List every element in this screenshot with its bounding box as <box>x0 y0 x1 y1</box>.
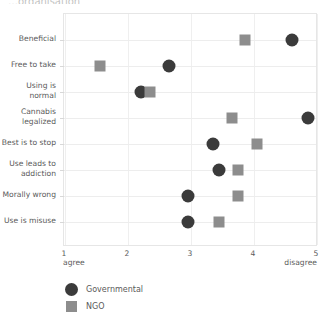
data-point-square[interactable] <box>252 139 263 150</box>
y-axis-category-label: Free to take <box>0 60 56 69</box>
legend: Governmental NGO <box>60 281 143 315</box>
y-axis-tick <box>60 170 64 171</box>
data-point-circle[interactable] <box>181 216 194 229</box>
x-axis-right-anchor-label: disagree <box>284 258 317 267</box>
gridline-vertical <box>65 14 66 245</box>
y-axis-tick <box>60 222 64 223</box>
x-axis-tick-label: 3 <box>188 249 193 258</box>
gridline-horizontal <box>64 92 316 93</box>
data-point-circle[interactable] <box>301 112 314 125</box>
gridline-vertical <box>254 14 255 245</box>
data-point-circle[interactable] <box>181 190 194 203</box>
y-axis-category-label: Use leads to addiction <box>0 159 56 177</box>
y-axis-tick <box>60 66 64 67</box>
y-axis-category-label: Cannabis legalized <box>0 107 56 125</box>
square-marker-icon <box>60 301 82 312</box>
y-axis-tick <box>60 196 64 197</box>
plot-area <box>63 13 317 246</box>
data-point-square[interactable] <box>214 217 225 228</box>
gridline-vertical <box>317 14 318 245</box>
x-axis-tick-label: 1 <box>62 249 67 258</box>
data-point-square[interactable] <box>239 35 250 46</box>
y-axis-category-label: Morally wrong <box>0 190 56 199</box>
gridline-horizontal <box>64 40 316 41</box>
gridline-horizontal <box>64 170 316 171</box>
data-point-circle[interactable] <box>285 34 298 47</box>
y-axis-tick <box>60 144 64 145</box>
x-axis: 12345 agree disagree <box>63 247 317 277</box>
data-point-square[interactable] <box>233 165 244 176</box>
x-axis-tick-label: 2 <box>125 249 130 258</box>
x-axis-left-anchor-label: agree <box>63 258 85 267</box>
y-axis-category-label: Using is normal <box>0 81 56 99</box>
data-point-square[interactable] <box>145 87 156 98</box>
y-axis-tick <box>60 118 64 119</box>
y-axis-tick <box>60 40 64 41</box>
x-axis-tick-label: 5 <box>314 249 319 258</box>
gridline-horizontal <box>64 118 316 119</box>
legend-label: Governmental <box>86 285 143 294</box>
data-point-circle[interactable] <box>162 60 175 73</box>
gridline-vertical <box>191 14 192 245</box>
data-point-circle[interactable] <box>207 138 220 151</box>
gridline-vertical <box>128 14 129 245</box>
data-point-square[interactable] <box>94 61 105 72</box>
legend-item-ngo[interactable]: NGO <box>60 298 143 315</box>
y-axis-category-label: Best is to stop <box>0 138 56 147</box>
data-point-circle[interactable] <box>213 164 226 177</box>
data-point-square[interactable] <box>233 191 244 202</box>
y-axis-category-label: Use is misuse <box>0 216 56 225</box>
y-axis-tick <box>60 92 64 93</box>
chart-title: …organisation <box>8 0 80 4</box>
x-axis-tick-label: 4 <box>251 249 256 258</box>
gridline-horizontal <box>64 144 316 145</box>
circle-marker-icon <box>60 283 82 296</box>
legend-item-governmental[interactable]: Governmental <box>60 281 143 298</box>
legend-label: NGO <box>86 302 104 311</box>
data-point-square[interactable] <box>226 113 237 124</box>
y-axis-category-label: Beneficial <box>0 34 56 43</box>
